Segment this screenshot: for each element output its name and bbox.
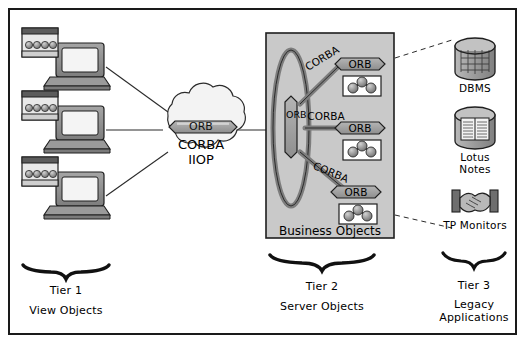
tier3-brace — [443, 253, 505, 268]
business-objects-label: Business Objects — [270, 224, 390, 238]
tier3-label: Tier 3 — [434, 280, 514, 293]
tier1-sublabel: View Objects — [16, 305, 116, 318]
lotus-notes-icon — [455, 107, 495, 149]
workstation-1 — [22, 28, 110, 90]
tier1-connectors — [106, 67, 168, 196]
cloud-orb-label: ORB — [170, 121, 232, 134]
cloud-iiop-label: IIOP — [166, 152, 236, 167]
tier1-brace — [23, 265, 109, 279]
corba-link-label-2: CORBA — [298, 110, 354, 122]
dbms-icon — [455, 38, 495, 80]
tier2-label: Tier 2 — [282, 281, 362, 294]
workstation-3 — [22, 157, 110, 219]
tier2-brace — [270, 255, 374, 271]
workstation-2 — [22, 91, 110, 153]
tier3-connectors — [395, 40, 452, 228]
dbms-label: DBMS — [445, 82, 505, 94]
diagram-canvas: ORB CORBA IIOP ORB CORBA CORBA CORBA ORB… — [0, 0, 527, 345]
bus-orb-label: ORB — [286, 109, 297, 121]
tier2-sublabel: Server Objects — [272, 301, 372, 314]
tp-monitors-label: TP Monitors — [440, 219, 510, 231]
tier1-label: Tier 1 — [26, 285, 106, 298]
lotus-notes-label: Lotus Notes — [445, 151, 505, 176]
cloud-corba-label: CORBA — [166, 137, 236, 152]
server-orb-label-1: ORB — [341, 58, 379, 70]
server-orb-label-2: ORB — [341, 122, 379, 134]
server-orb-label-3: ORB — [337, 186, 375, 198]
tier3-sublabel: Legacy Applications — [429, 299, 519, 325]
handshake-icon — [452, 190, 498, 212]
